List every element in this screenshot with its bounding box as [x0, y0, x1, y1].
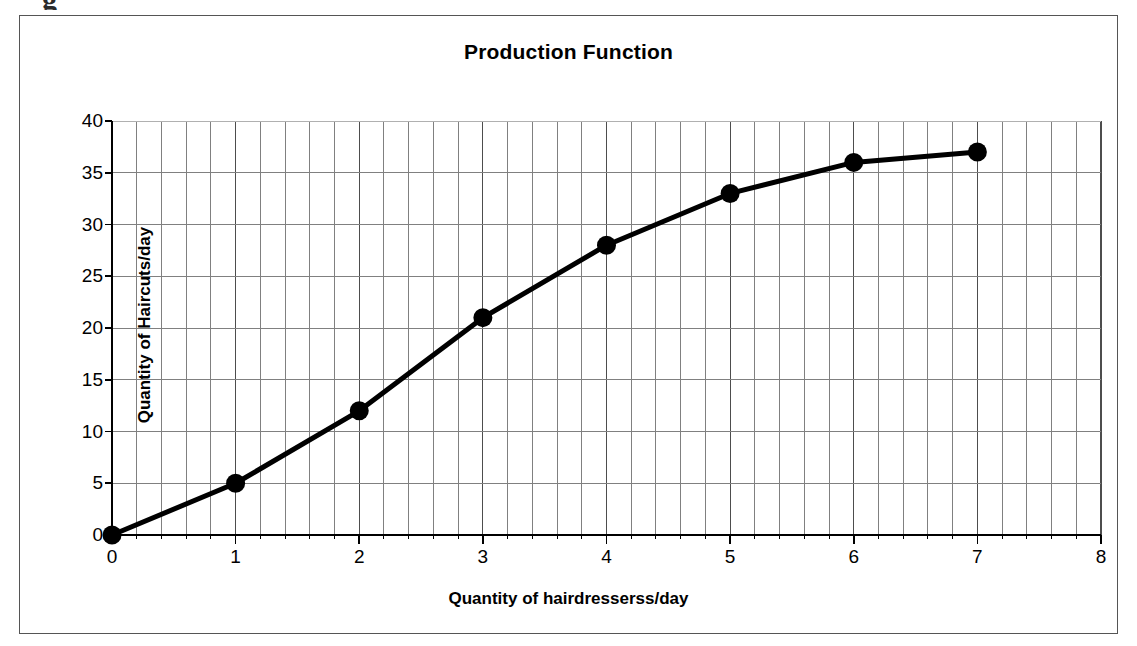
- x-tick-label: 3: [478, 546, 489, 568]
- y-tick-label: 5: [92, 472, 103, 494]
- data-point-marker: [473, 308, 492, 327]
- x-tick-label: 6: [848, 546, 859, 568]
- data-point-marker: [103, 526, 122, 545]
- x-tick-label: 2: [354, 546, 365, 568]
- x-tick-label: 5: [725, 546, 736, 568]
- data-point-marker: [968, 143, 987, 162]
- plot-area: 0510152025303540 012345678: [112, 121, 1101, 535]
- y-tick-label: 40: [82, 110, 103, 132]
- data-point-marker: [721, 184, 740, 203]
- x-tick-label: 4: [601, 546, 612, 568]
- chart-title: Production Function: [20, 40, 1117, 64]
- y-tick-label: 30: [82, 214, 103, 236]
- y-tick-label: 10: [82, 421, 103, 443]
- chart-frame: Production Function Quantity of Haircuts…: [19, 15, 1118, 634]
- data-point-marker: [597, 236, 616, 255]
- data-point-marker: [226, 474, 245, 493]
- y-tick-label: 25: [82, 265, 103, 287]
- y-tick-label: 35: [82, 162, 103, 184]
- x-axis-title: Quantity of hairdresserss/day: [20, 589, 1117, 609]
- y-tick-label: 20: [82, 317, 103, 339]
- y-tick-label: 15: [82, 369, 103, 391]
- x-tick-label: 7: [972, 546, 983, 568]
- y-tick-label: 0: [92, 524, 103, 546]
- series-layer: [112, 121, 1101, 535]
- clipped-glyph-artifact: g: [42, 0, 68, 10]
- x-tick-label: 8: [1096, 546, 1107, 568]
- data-point-marker: [844, 153, 863, 172]
- x-tick-label: 0: [107, 546, 118, 568]
- data-point-marker: [350, 401, 369, 420]
- x-tick-label: 1: [230, 546, 241, 568]
